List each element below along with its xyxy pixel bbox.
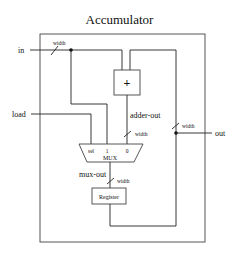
port-out-label: out xyxy=(215,129,226,138)
module-boundary xyxy=(40,34,205,242)
diagram-title: Accumulator xyxy=(86,12,155,27)
mux-out-label: mux-out xyxy=(79,170,107,179)
mux-input-0: 0 xyxy=(126,148,129,154)
adder-symbol: + xyxy=(124,76,131,90)
adder-out-label: adder-out xyxy=(130,111,161,120)
register-label: Register xyxy=(99,194,119,200)
mux-input-1: 1 xyxy=(106,148,109,154)
mux-label: MUX xyxy=(103,155,118,161)
port-in-label: in xyxy=(18,46,24,55)
width-label-adder: width xyxy=(135,131,148,137)
width-label-out: width xyxy=(182,123,195,129)
port-load-label: load xyxy=(12,110,26,119)
width-label-mux: width xyxy=(117,178,130,184)
mux-input-sel: sel xyxy=(88,148,95,154)
width-label-in: width xyxy=(53,40,66,46)
accumulator-diagram: Accumulator in width + adder-out width l… xyxy=(0,0,239,257)
